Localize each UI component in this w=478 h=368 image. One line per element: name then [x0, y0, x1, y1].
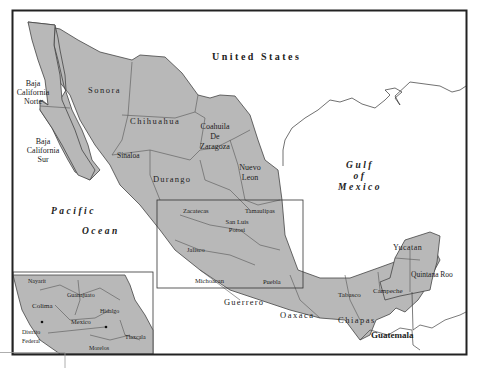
- label-df-1: Distrito: [22, 329, 40, 335]
- label-baja-sur-3: Sur: [37, 155, 48, 164]
- label-of: of: [354, 171, 367, 181]
- label-coahuila-3: Zaragoza: [200, 142, 230, 151]
- label-guerrero: Guerrero: [224, 297, 264, 307]
- label-san-luis-2: Potosi: [229, 226, 245, 233]
- label-coahuila-2: De: [210, 132, 220, 141]
- label-quintana-roo: Quintana Roo: [411, 270, 453, 279]
- mexico-map: United States Gulf of Mexico Pacific Oce…: [0, 0, 478, 368]
- label-tabasco: Tabasco: [338, 291, 361, 299]
- label-durango: Durango: [153, 174, 191, 184]
- label-colima: Colima: [32, 302, 54, 310]
- label-chihuahua: Chihuahua: [130, 116, 180, 126]
- label-san-luis-1: San Luis: [226, 218, 249, 225]
- label-zacatecas: Zacatecas: [183, 207, 209, 214]
- label-sinaloa: Sinaloa: [117, 151, 140, 160]
- label-nayarit: Nayarit: [28, 278, 46, 284]
- label-coahuila-1: Coahuila: [201, 122, 230, 131]
- label-morelos: Morelos: [89, 345, 110, 351]
- label-chiapas: Chiapas: [338, 315, 376, 325]
- label-nuevo-leon-1: Nuevo: [239, 163, 260, 172]
- us-gulf-coastline: [283, 82, 466, 166]
- label-mexico-gulf: Mexico: [337, 182, 382, 192]
- label-michoacan: Michoacan: [195, 277, 225, 284]
- label-united-states: United States: [212, 51, 301, 62]
- label-baja-norte-3: Norte: [24, 97, 43, 106]
- label-guatemala: Guatemala: [371, 330, 414, 340]
- label-tlaxcala: Tlaxcala: [125, 334, 146, 340]
- label-baja-norte-2: California: [17, 88, 50, 97]
- label-baja-norte-1: Baja: [26, 79, 41, 88]
- label-oaxaca: Oaxaca: [280, 310, 314, 320]
- colima-marker: [41, 321, 44, 324]
- label-guanajuato: Guanajuato: [67, 292, 95, 298]
- label-hidalgo: Hidalgo: [100, 308, 119, 314]
- label-pacific: Pacific: [51, 206, 96, 216]
- label-campeche: Campeche: [373, 287, 403, 295]
- label-yucatan: Yucatan: [393, 243, 422, 252]
- label-nuevo-leon-2: Leon: [242, 173, 258, 182]
- label-baja-sur-1: Baja: [36, 137, 51, 146]
- df-marker: [105, 326, 108, 329]
- label-gulf: Gulf: [346, 160, 374, 170]
- label-df-2: Federal: [22, 338, 40, 344]
- label-baja-sur-2: California: [27, 146, 60, 155]
- label-sonora: Sonora: [88, 85, 121, 95]
- label-ocean: Ocean: [82, 226, 120, 236]
- guatemala-border: [412, 292, 466, 330]
- label-puebla: Puebla: [263, 278, 281, 285]
- label-mexico-state: Mexico: [71, 318, 91, 325]
- label-jalisco: Jalisco: [187, 246, 205, 253]
- label-tamaulipas: Tamaulipas: [245, 207, 275, 214]
